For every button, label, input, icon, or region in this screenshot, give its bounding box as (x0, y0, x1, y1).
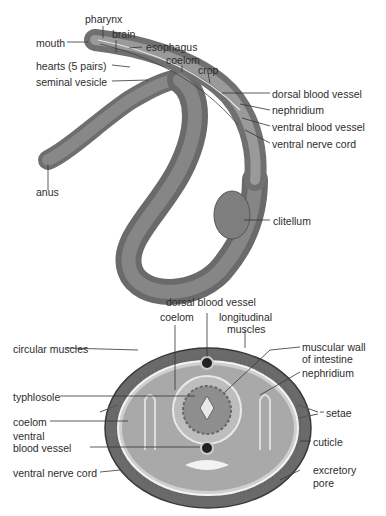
label-mouth: mouth (36, 37, 65, 49)
label-anus: anus (36, 186, 59, 198)
label-nephridium: nephridium (272, 104, 324, 116)
label-coelom: coelom (166, 54, 200, 66)
label-cs-ventral-blood-vessel-2: blood vessel (13, 442, 71, 454)
label-esophagus: esophagus (146, 41, 197, 53)
label-hearts: hearts (5 pairs) (36, 60, 107, 72)
label-crop: crop (198, 64, 218, 76)
label-cs-circular-muscles: circular muscles (13, 343, 88, 355)
label-cs-muscular-wall-2: of intestine (302, 353, 353, 365)
label-cs-dorsal-blood-vessel: dorsal blood vessel (166, 296, 256, 308)
label-cs-coelom-top: coelom (160, 311, 194, 323)
label-cs-setae: setae (326, 407, 352, 419)
label-cs-typhlosole: typhlosole (13, 391, 60, 403)
label-clitellum: clitellum (273, 215, 311, 227)
label-cs-muscular-wall-1: muscular wall (302, 341, 366, 353)
label-cs-longitudinal-muscles-2: muscles (227, 323, 266, 335)
label-seminal-vesicle: seminal vesicle (36, 76, 107, 88)
label-cs-nephridium: nephridium (302, 367, 354, 379)
label-cs-excretory-pore-2: pore (313, 477, 334, 489)
label-brain: brain (112, 28, 135, 40)
label-pharynx: pharynx (85, 13, 122, 25)
label-ventral-nerve-cord: ventral nerve cord (272, 138, 356, 150)
label-dorsal-blood-vessel: dorsal blood vessel (272, 88, 362, 100)
label-ventral-blood-vessel: ventral blood vessel (272, 121, 365, 133)
label-cs-ventral-blood-vessel-1: ventral (13, 430, 45, 442)
label-cs-excretory-pore-1: excretory (313, 464, 356, 476)
label-cs-longitudinal-muscles-1: longitudinal (219, 311, 272, 323)
cross-section (100, 348, 318, 508)
label-cs-cuticle: cuticle (313, 436, 343, 448)
label-cs-coelom-left: coelom (13, 416, 47, 428)
clitellum-band (214, 191, 250, 239)
label-cs-ventral-nerve-cord: ventral nerve cord (13, 467, 97, 479)
